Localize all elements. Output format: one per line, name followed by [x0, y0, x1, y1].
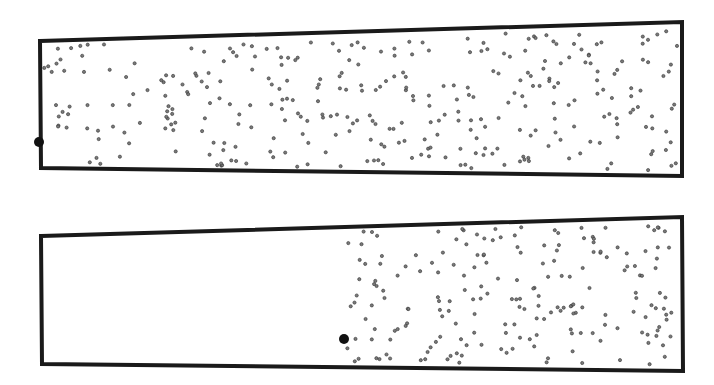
- particle-dot: [497, 116, 500, 119]
- particle-dot: [228, 103, 231, 106]
- particle-dot: [79, 44, 82, 47]
- particle-dot: [508, 55, 511, 58]
- particle-dot: [466, 86, 469, 89]
- particle-dot: [284, 151, 287, 154]
- particle-dot: [670, 164, 673, 167]
- particle-dot: [483, 237, 486, 240]
- particle-dot: [559, 309, 562, 312]
- particle-dot: [358, 258, 361, 261]
- particle-dot: [580, 226, 583, 229]
- particle-dot: [518, 305, 521, 308]
- particle-dot: [640, 274, 643, 277]
- particle-dot: [138, 121, 141, 124]
- particle-dot: [174, 150, 177, 153]
- particle-dot: [419, 270, 422, 273]
- particle-dot: [370, 304, 373, 307]
- particle-dot: [427, 155, 430, 158]
- particle-dot: [674, 162, 677, 165]
- particle-dot: [203, 50, 206, 53]
- particle-dot: [664, 296, 667, 299]
- particle-dot: [329, 115, 332, 118]
- particle-dot: [379, 262, 382, 265]
- particle-dot: [459, 338, 462, 341]
- particle-dot: [618, 359, 621, 362]
- particle-dot: [535, 317, 538, 320]
- particle-dot: [383, 145, 386, 148]
- particle-dot: [270, 103, 273, 106]
- particle-dot: [294, 59, 297, 62]
- particle-dot: [164, 94, 167, 97]
- particle-dot: [165, 74, 168, 77]
- particle-dot: [59, 58, 62, 61]
- particle-dot: [623, 269, 626, 272]
- particle-dot: [366, 160, 369, 163]
- particle-dot: [572, 303, 575, 306]
- particle-dot: [455, 352, 458, 355]
- particle-dot: [443, 113, 446, 116]
- particle-dot: [430, 261, 433, 264]
- particle-dot: [603, 323, 606, 326]
- particle-dot: [285, 97, 288, 100]
- particle-dot: [526, 71, 529, 74]
- particle-dot: [653, 229, 656, 232]
- particle-dot: [426, 350, 429, 353]
- particle-dot: [513, 234, 516, 237]
- particle-dot: [554, 131, 557, 134]
- particle-dot: [635, 296, 638, 299]
- diffusion-diagram: [0, 0, 714, 385]
- particle-dot: [581, 266, 584, 269]
- particle-dot: [460, 354, 463, 357]
- particle-dot: [334, 133, 337, 136]
- particle-dot: [166, 110, 169, 113]
- particle-dot: [475, 137, 478, 140]
- particle-dot: [552, 40, 555, 43]
- particle-dot: [479, 118, 482, 121]
- particle-dot: [348, 59, 351, 62]
- particle-dot: [203, 117, 206, 120]
- particle-dot: [319, 78, 322, 81]
- particle-dot: [111, 104, 114, 107]
- particle-dot: [464, 163, 467, 166]
- particle-dot: [606, 167, 609, 170]
- particle-dot: [491, 239, 494, 242]
- particle-dot: [421, 41, 424, 44]
- particle-dot: [604, 226, 607, 229]
- particle-dot: [393, 47, 396, 50]
- particle-dot: [636, 105, 639, 108]
- particle-dot: [592, 250, 595, 253]
- particle-dot: [518, 297, 521, 300]
- particle-dot: [306, 163, 309, 166]
- particle-dot: [316, 86, 319, 89]
- particle-dot: [573, 125, 576, 128]
- particle-dot: [484, 125, 487, 128]
- particle-dot: [568, 56, 571, 59]
- particle-dot: [278, 87, 281, 90]
- particle-dot: [383, 296, 386, 299]
- particle-dot: [389, 357, 392, 360]
- particle-dot: [651, 127, 654, 130]
- particle-dot: [374, 122, 377, 125]
- particle-dot: [216, 164, 219, 167]
- particle-dot: [580, 48, 583, 51]
- particle-dot: [187, 93, 190, 96]
- particle-dot: [569, 328, 572, 331]
- particle-dot: [357, 357, 360, 360]
- particle-dot: [160, 79, 163, 82]
- particle-dot: [420, 153, 423, 156]
- particle-dot: [656, 329, 659, 332]
- particle-dot: [267, 77, 270, 80]
- particle-dot: [646, 333, 649, 336]
- particle-dot: [95, 156, 98, 159]
- particle-dot: [615, 117, 618, 120]
- particle-dot: [301, 132, 304, 135]
- particle-dot: [339, 165, 342, 168]
- particle-dot: [669, 141, 672, 144]
- particle-dot: [335, 113, 338, 116]
- particle-dot: [608, 112, 611, 115]
- particle-dot: [496, 147, 499, 150]
- particle-dot: [538, 84, 541, 87]
- particle-dot: [397, 141, 400, 144]
- particle-dot: [220, 162, 223, 165]
- particle-dot: [473, 331, 476, 334]
- particle-dot: [469, 128, 472, 131]
